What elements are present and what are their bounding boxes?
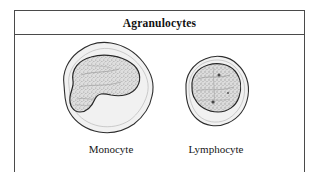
monocyte-illustration <box>51 35 171 143</box>
figure-title: Agranulocytes <box>123 17 197 29</box>
cell-label-lymphocyte: Lymphocyte <box>156 143 276 155</box>
lymphocyte-illustration <box>156 35 276 143</box>
cell-figure-lymphocyte: Lymphocyte <box>156 35 276 172</box>
cell-figure-monocyte: Monocyte <box>51 35 171 172</box>
figure-body: Monocyte <box>15 35 304 172</box>
cell-label-monocyte: Monocyte <box>51 143 171 155</box>
figure-header: Agranulocytes <box>15 11 304 35</box>
agranulocytes-figure: Agranulocytes <box>0 0 319 185</box>
figure-plate: Agranulocytes <box>14 10 305 172</box>
